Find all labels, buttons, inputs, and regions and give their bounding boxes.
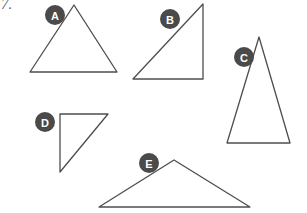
geometry-worksheet-figure: 7. A B C <box>0 0 307 213</box>
triangle-d-outline <box>60 114 108 172</box>
badge-label-d: D <box>41 117 49 129</box>
badge-label-e: E <box>145 158 152 170</box>
badge-label-b: B <box>166 14 174 26</box>
badge-label-a: A <box>51 10 59 22</box>
badge-label-c: C <box>240 52 248 64</box>
triangles-diagram: A B C D E <box>0 0 307 213</box>
triangle-e-outline <box>99 160 250 207</box>
triangle-a-outline <box>30 5 117 72</box>
